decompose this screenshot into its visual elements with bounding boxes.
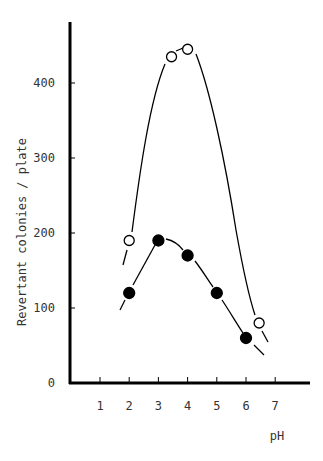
x-tick-label: 5 <box>213 399 220 413</box>
y-tick-label: 200 <box>33 226 55 240</box>
curve-open-circles <box>123 48 268 342</box>
data-markers <box>124 44 264 343</box>
x-axis-label: pH <box>270 429 284 443</box>
x-tick-label: 3 <box>155 399 162 413</box>
y-tick-label: 100 <box>33 301 55 315</box>
filled-circle-marker <box>182 250 193 261</box>
x-tick-label: 2 <box>126 399 133 413</box>
open-circle-marker <box>183 44 193 54</box>
y-axis-label: Revertant colonies / plate <box>15 138 29 326</box>
chart: 0100200300400 1234567 Revertant colonies… <box>0 0 323 461</box>
filled-circle-marker <box>124 288 135 299</box>
y-tick-label: 300 <box>33 151 55 165</box>
x-tick-label: 6 <box>242 399 249 413</box>
filled-circle-marker <box>241 333 252 344</box>
y-tick-label: 400 <box>33 76 55 90</box>
filled-circle-marker <box>153 235 164 246</box>
open-circle-marker <box>124 236 134 246</box>
filled-circle-marker <box>211 288 222 299</box>
open-circle-marker <box>167 52 177 62</box>
x-tick-label: 7 <box>272 399 279 413</box>
x-tick-label: 1 <box>96 399 103 413</box>
x-tick-label: 4 <box>184 399 191 413</box>
open-circle-marker <box>254 318 264 328</box>
y-tick-label: 0 <box>48 376 55 390</box>
